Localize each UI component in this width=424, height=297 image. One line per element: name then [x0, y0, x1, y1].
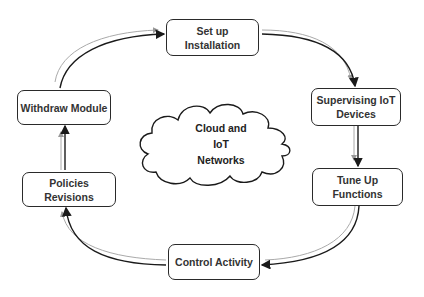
cloud-label: Cloud and IoT Networks	[176, 120, 266, 168]
node-setup-installation: Set up Installation	[166, 19, 259, 56]
arrow-supervising-to-tuneup	[354, 126, 358, 166]
arrow-setup-to-supervising	[262, 30, 355, 86]
arrow-tuneup-to-control	[262, 206, 359, 265]
node-control-activity: Control Activity	[168, 244, 260, 280]
node-policies-revisions: Policies Revisions	[22, 172, 116, 207]
arrow-control-to-policies	[62, 208, 166, 265]
arrow-withdraw-to-setup	[55, 30, 164, 88]
node-supervising-iot-devices: Supervising IoT Devices	[311, 88, 401, 126]
node-withdraw-module: Withdraw Module	[17, 90, 111, 125]
node-tune-up-functions: Tune Up Functions	[312, 168, 403, 206]
arrow-policies-to-withdraw	[61, 126, 65, 170]
